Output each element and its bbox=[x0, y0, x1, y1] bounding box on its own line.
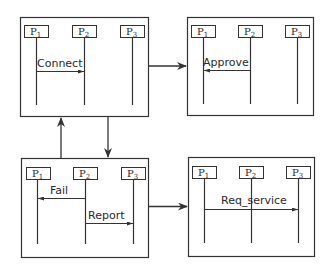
state-box-s1: P1 P2 P3 Connect bbox=[21, 18, 149, 117]
message-fail: Fail bbox=[38, 184, 85, 199]
state-box-s3: P1 P2 P3 Fail Report bbox=[22, 159, 149, 258]
state-box-s4: P1 P2 P3 Req_service bbox=[189, 158, 315, 257]
message-approve: Approve bbox=[203, 56, 250, 71]
svg-text:Req_service: Req_service bbox=[221, 194, 287, 207]
process-p3: P3 bbox=[122, 168, 146, 245]
svg-text:Connect: Connect bbox=[37, 57, 83, 70]
process-p1: P1 bbox=[27, 168, 51, 245]
state-box-s2: P1 P2 P3 Approve bbox=[188, 18, 314, 116]
process-p3: P3 bbox=[286, 26, 310, 105]
message-connect: Connect bbox=[37, 57, 84, 72]
process-p3: P3 bbox=[121, 26, 145, 106]
process-p3: P3 bbox=[287, 167, 311, 244]
process-p2: P2 bbox=[74, 168, 98, 245]
svg-text:Approve: Approve bbox=[203, 56, 249, 69]
process-p1: P1 bbox=[193, 167, 217, 244]
svg-text:Fail: Fail bbox=[50, 184, 68, 197]
msc-diagram: P1 P2 P3 Connect P1 P2 bbox=[0, 0, 332, 272]
svg-text:Report: Report bbox=[88, 209, 125, 222]
message-report: Report bbox=[86, 209, 133, 224]
